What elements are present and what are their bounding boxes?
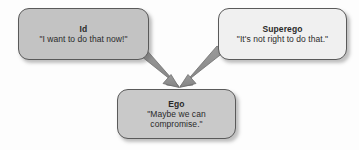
node-ego-quote: "Maybe we can compromise." <box>143 109 209 130</box>
node-superego-quote: "It's not right to do that." <box>233 34 332 45</box>
node-id-title: Id <box>80 24 88 34</box>
node-id-quote: "I want to do that now!" <box>35 34 131 45</box>
node-ego-quote-line-2: compromise." <box>147 119 205 130</box>
node-ego[interactable]: Ego "Maybe we can compromise." <box>117 89 236 139</box>
arrow-superego-to-ego <box>180 46 225 88</box>
node-ego-quote-line-1: "Maybe we can <box>147 109 205 120</box>
concept-diagram: Id "I want to do that now!" Superego "It… <box>0 0 359 150</box>
node-superego-title: Superego <box>262 24 302 34</box>
node-superego[interactable]: Superego "It's not right to do that." <box>218 8 347 60</box>
node-id[interactable]: Id "I want to do that now!" <box>18 8 149 60</box>
node-ego-title: Ego <box>168 99 184 109</box>
